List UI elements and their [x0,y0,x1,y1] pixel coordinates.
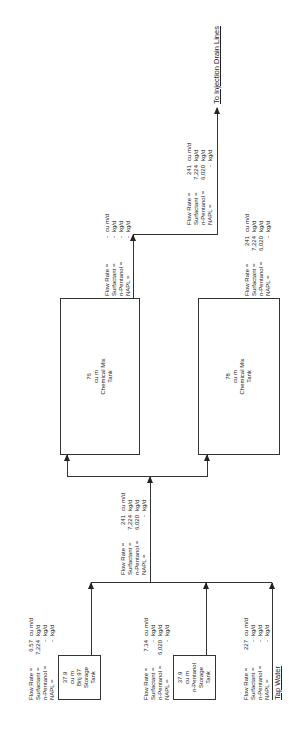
tank-type: Storage [198,667,205,688]
tank-volume: 78 [225,373,232,380]
connector-line [206,583,207,655]
tank-volume: 37.9 [177,672,184,684]
connector-line [91,583,92,655]
tank-chemical: n-Pentanol [191,663,198,692]
arrow-icon [64,454,70,461]
tank-type: Chemical Mix [100,359,107,395]
chemical-mix-tank-76: 76 cu m Chemical Mix Tank [60,298,140,455]
output-line [217,108,218,235]
tank-volume-unit: cu m [69,671,76,684]
connector-line [133,235,134,298]
tap-water-flow-table: Flow Rate =227cu m/d Surfactant =-kg/d n… [243,612,271,700]
brij97-flow-table: Flow Rate =6.57cu m/d Surfactant =7,224k… [28,612,56,700]
chemical-mix-tank-78: 78 cu m Chemical Mix Tank [198,298,280,455]
destination-label: To Injection Drain Lines [212,26,221,104]
pentanol-flow-table: Flow Rate =7.34cu m/d Surfactant =-kg/d … [143,612,171,700]
tank-type: Chemical Mix [239,359,246,395]
arrow-icon [269,582,275,589]
split-line [67,476,207,477]
tank-volume: 37.9 [62,672,69,684]
mix-tank-76-flow-table: Flow Rate =-cu m/d Surfactant =-kg/d n-P… [104,208,132,296]
collector-line [91,582,272,583]
merge-line [133,234,217,235]
tank-volume-unit: cu m [232,370,239,383]
pentanol-storage-tank: 37.9 cu m n-Pentanol Storage Tank [173,655,216,700]
connector-line [272,583,273,700]
tank-volume-unit: cu m [184,671,191,684]
arrow-icon [204,454,210,461]
arrow-icon [214,107,220,114]
tank-chemical: Brij 97 [76,669,83,686]
tank-word: Tank [107,370,114,383]
mix-tank-78-flow-table: Flow Rate =241cu m/d Surfactant =7,224kg… [244,208,272,296]
combined-line [150,477,151,583]
arrow-icon [147,476,153,483]
tank-volume-unit: cu m [93,370,100,383]
tank-type: Storage [83,667,90,688]
tap-water-label: Tap Water [273,666,282,700]
process-flow-diagram: 37.9 cu m Brij 97 Storage Tank Flow Rate… [0,0,303,730]
tank-word: Tank [205,671,212,684]
arrow-icon [130,234,136,241]
tank-word: Tank [246,370,253,383]
tank-word: Tank [90,671,97,684]
arrow-icon [88,582,94,589]
arrow-icon [203,582,209,589]
tank-volume: 76 [86,373,93,380]
brij97-storage-tank: 37.9 cu m Brij 97 Storage Tank [58,655,101,700]
output-flow-table: Flow Rate =241cu m/d Surfactant =7,224kg… [186,137,214,225]
combined-flow-table: Flow Rate =241cu m/d Surfactant =7,224kg… [120,487,148,575]
